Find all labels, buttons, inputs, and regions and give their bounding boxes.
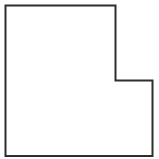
- diagram-canvas: [0, 0, 159, 159]
